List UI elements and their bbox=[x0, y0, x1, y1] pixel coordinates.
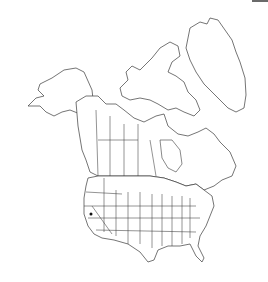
occurrence-marker-california bbox=[90, 213, 93, 216]
united-states bbox=[84, 176, 214, 262]
north-america-map bbox=[0, 0, 268, 282]
greenland bbox=[186, 18, 246, 112]
